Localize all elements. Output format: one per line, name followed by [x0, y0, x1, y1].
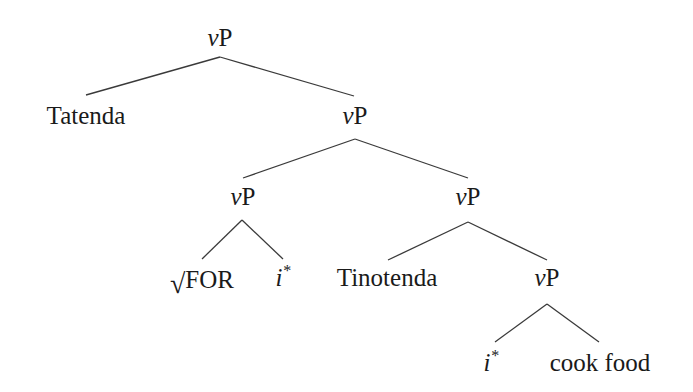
category-p: P: [219, 24, 233, 51]
edge-vpleft-istar: [242, 220, 283, 259]
leaf-label: Tinotenda: [337, 264, 437, 291]
edge-vpbottom-istar: [495, 304, 547, 342]
node-vp-bottom: vP: [534, 265, 559, 290]
node-vp2: vP: [342, 103, 367, 128]
category-p: P: [242, 183, 256, 210]
category-v: v: [534, 264, 545, 291]
square-root-icon: √: [170, 268, 185, 299]
node-i-star-2: i*: [484, 350, 499, 375]
tree-edges: [0, 0, 693, 392]
node-root-for: √FOR: [170, 265, 234, 293]
category-p: P: [546, 264, 560, 291]
asterisk: *: [282, 262, 290, 279]
category-p: P: [354, 102, 368, 129]
node-tinotenda: Tinotenda: [337, 265, 437, 290]
edge-vpright-vpbottom: [468, 222, 547, 260]
node-vp-right: vP: [455, 184, 480, 209]
asterisk: *: [490, 347, 498, 364]
category-v: v: [455, 183, 466, 210]
category-v: v: [230, 183, 241, 210]
category-v: v: [342, 102, 353, 129]
index-label: i: [276, 264, 283, 291]
edge-root-vp2: [220, 57, 354, 96]
index-label: i: [484, 349, 491, 376]
node-root-vp: vP: [207, 25, 232, 50]
edge-vpleft-rootfor: [202, 220, 242, 259]
edge-root-tatenda: [86, 57, 220, 95]
edge-vp2-vpleft: [243, 139, 355, 178]
edge-vpbottom-cookfood: [547, 304, 599, 342]
node-vp-left: vP: [230, 184, 255, 209]
node-tatenda: Tatenda: [47, 103, 126, 128]
node-i-star-1: i*: [276, 265, 291, 290]
leaf-label: cook food: [550, 349, 651, 376]
leaf-label: FOR: [185, 266, 234, 293]
category-v: v: [207, 24, 218, 51]
edge-vpright-tinotenda: [388, 222, 468, 260]
node-cook-food: cook food: [550, 350, 651, 375]
category-p: P: [467, 183, 481, 210]
leaf-label: Tatenda: [47, 102, 126, 129]
edge-vp2-vpright: [355, 139, 468, 178]
